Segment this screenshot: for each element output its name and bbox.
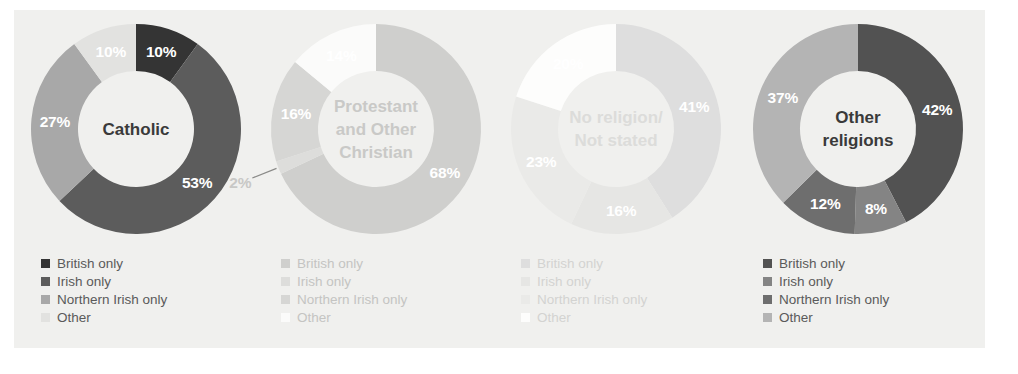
- legend-swatch-icon: [41, 313, 50, 322]
- legend-label: Other: [537, 310, 571, 325]
- leader-line-protestant-and-other-christian: [252, 168, 276, 178]
- legend-label: Northern Irish only: [779, 292, 889, 307]
- donut-chart-other-religions: 42%8%12%37%OtherreligionsBritish onlyIri…: [738, 10, 978, 348]
- segment-value-label: 27%: [40, 113, 71, 130]
- segment-value-label: 42%: [922, 101, 953, 118]
- segment-value-label: 23%: [526, 153, 557, 170]
- legend-label: Irish only: [537, 274, 591, 289]
- donut-ring-no-religion-not-stated: 41%16%23%20%No religion/Not stated: [505, 18, 727, 240]
- segment-value-label: 53%: [182, 174, 213, 191]
- legend-item-other[interactable]: Other: [41, 308, 231, 326]
- legend-swatch-icon: [41, 259, 50, 268]
- legend-swatch-icon: [41, 295, 50, 304]
- chart-panel: 10%53%27%10%CatholicBritish onlyIrish on…: [14, 10, 985, 348]
- segment-value-label: 16%: [606, 202, 637, 219]
- legend-item-irish-only[interactable]: Irish only: [41, 272, 231, 290]
- segment-value-label: 12%: [810, 195, 841, 212]
- legend-label: Other: [57, 310, 91, 325]
- legend-label: Other: [297, 310, 331, 325]
- segment-value-label: 10%: [146, 43, 177, 60]
- legend-swatch-icon: [41, 277, 50, 286]
- legend-swatch-icon: [281, 259, 290, 268]
- legend-swatch-icon: [763, 295, 772, 304]
- legend-catholic: British onlyIrish onlyNorthern Irish onl…: [41, 254, 231, 326]
- donut-segment-other-religions-other: [753, 24, 858, 203]
- legend-label: Northern Irish only: [537, 292, 647, 307]
- legend-label: British only: [297, 256, 363, 271]
- legend-item-british-only[interactable]: British only: [281, 254, 471, 272]
- legend-swatch-icon: [521, 259, 530, 268]
- legend-label: Northern Irish only: [57, 292, 167, 307]
- donut-ring-other-religions: 42%8%12%37%Otherreligions: [747, 18, 969, 240]
- legend-label: Other: [779, 310, 813, 325]
- legend-item-british-only[interactable]: British only: [521, 254, 711, 272]
- legend-item-other[interactable]: Other: [521, 308, 711, 326]
- segment-value-label: 2%: [229, 174, 251, 191]
- legend-swatch-icon: [763, 277, 772, 286]
- segment-value-label: 41%: [679, 98, 710, 115]
- legend-item-other[interactable]: Other: [763, 308, 953, 326]
- legend-swatch-icon: [281, 295, 290, 304]
- segment-value-label: 20%: [553, 55, 584, 72]
- legend-swatch-icon: [281, 277, 290, 286]
- legend-item-northern-irish-only[interactable]: Northern Irish only: [281, 290, 471, 308]
- segment-value-label: 8%: [865, 200, 887, 217]
- legend-label: British only: [779, 256, 845, 271]
- legend-item-british-only[interactable]: British only: [763, 254, 953, 272]
- legend-item-northern-irish-only[interactable]: Northern Irish only: [41, 290, 231, 308]
- legend-label: Irish only: [779, 274, 833, 289]
- segment-value-label: 14%: [326, 47, 357, 64]
- legend-item-irish-only[interactable]: Irish only: [521, 272, 711, 290]
- legend-swatch-icon: [281, 313, 290, 322]
- donut-ring-protestant-and-other-christian: 68%2%16%14%Protestantand OtherChristian: [265, 18, 487, 240]
- legend-label: British only: [57, 256, 123, 271]
- legend-label: Northern Irish only: [297, 292, 407, 307]
- legend-item-northern-irish-only[interactable]: Northern Irish only: [763, 290, 953, 308]
- legend-other-religions: British onlyIrish onlyNorthern Irish onl…: [763, 254, 953, 326]
- figure-canvas: 10%53%27%10%CatholicBritish onlyIrish on…: [0, 0, 1018, 374]
- legend-swatch-icon: [521, 295, 530, 304]
- segment-value-label: 10%: [96, 43, 127, 60]
- legend-label: Irish only: [57, 274, 111, 289]
- legend-item-irish-only[interactable]: Irish only: [763, 272, 953, 290]
- legend-no-religion-not-stated: British onlyIrish onlyNorthern Irish onl…: [521, 254, 711, 326]
- donut-chart-catholic: 10%53%27%10%CatholicBritish onlyIrish on…: [16, 10, 256, 348]
- legend-item-irish-only[interactable]: Irish only: [281, 272, 471, 290]
- legend-label: Irish only: [297, 274, 351, 289]
- legend-swatch-icon: [763, 259, 772, 268]
- donut-chart-no-religion-not-stated: 41%16%23%20%No religion/Not statedBritis…: [496, 10, 736, 348]
- segment-value-label: 68%: [430, 164, 461, 181]
- legend-item-british-only[interactable]: British only: [41, 254, 231, 272]
- segment-value-label: 16%: [281, 105, 312, 122]
- legend-protestant-and-other-christian: British onlyIrish onlyNorthern Irish onl…: [281, 254, 471, 326]
- legend-swatch-icon: [763, 313, 772, 322]
- legend-swatch-icon: [521, 277, 530, 286]
- segment-value-label: 37%: [768, 89, 799, 106]
- legend-item-other[interactable]: Other: [281, 308, 471, 326]
- legend-item-northern-irish-only[interactable]: Northern Irish only: [521, 290, 711, 308]
- donut-ring-catholic: 10%53%27%10%Catholic: [25, 18, 247, 240]
- legend-swatch-icon: [521, 313, 530, 322]
- legend-label: British only: [537, 256, 603, 271]
- donut-chart-protestant-and-other-christian: 68%2%16%14%Protestantand OtherChristianB…: [256, 10, 496, 348]
